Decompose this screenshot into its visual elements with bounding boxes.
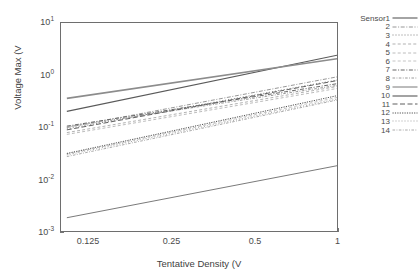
legend-line-swatch	[392, 109, 418, 117]
x-axis-label-text: Tentative Density (V	[157, 258, 241, 269]
series-line	[67, 100, 337, 157]
series-line	[67, 97, 337, 154]
legend-line-swatch	[392, 83, 418, 91]
series-lines	[61, 23, 337, 231]
legend-line-swatch	[392, 23, 418, 31]
legend-item-label: 14	[381, 126, 392, 135]
legend-line-swatch	[392, 57, 418, 65]
x-tick-label-1: 0.25	[163, 236, 181, 246]
series-line	[67, 99, 337, 155]
figure-canvas: Voltage Max (V 101 100 10-1 10-2 10-3 0.…	[0, 0, 418, 280]
y-tick-label-10e0: 100	[20, 70, 54, 80]
x-tick-label-0: 0.125	[77, 236, 100, 246]
series-line	[67, 89, 337, 135]
y-tick-label-10e-3: 10-3	[20, 227, 54, 237]
legend-item[interactable]: 5	[346, 48, 418, 57]
legend-line-swatch	[392, 66, 418, 74]
legend-line-swatch	[392, 100, 418, 108]
y-tick-label-10e-2: 10-2	[20, 175, 54, 185]
y-tick-label-10e1: 101	[20, 17, 54, 27]
legend-line-swatch	[392, 126, 418, 134]
series-line	[67, 81, 337, 130]
x-tick-label-3: 1	[335, 236, 340, 246]
legend-line-swatch	[392, 31, 418, 39]
legend-item[interactable]: 6	[346, 57, 418, 66]
legend-line-swatch	[392, 74, 418, 82]
series-line	[67, 87, 337, 133]
x-tick-label-2: 0.5	[249, 236, 262, 246]
legend-item[interactable]: 8	[346, 74, 418, 83]
legend-item[interactable]: 4	[346, 40, 418, 49]
legend-item[interactable]: 13	[346, 117, 418, 126]
legend-line-swatch	[392, 14, 418, 22]
legend-item[interactable]: Sensor1	[346, 14, 418, 23]
legend-item[interactable]: 14	[346, 126, 418, 135]
legend-line-swatch	[392, 92, 418, 100]
legend-line-swatch	[392, 117, 418, 125]
y-tick-label-10e-1: 10-1	[20, 122, 54, 132]
legend-item[interactable]: 7	[346, 66, 418, 75]
legend-item[interactable]: 9	[346, 83, 418, 92]
legend-item[interactable]: 10	[346, 91, 418, 100]
x-axis-label: Tentative Density (V	[60, 258, 338, 269]
series-line	[67, 59, 337, 99]
plot-area	[60, 22, 338, 232]
legend-line-swatch	[392, 49, 418, 57]
legend-item[interactable]: 11	[346, 100, 418, 109]
legend-item[interactable]: 12	[346, 109, 418, 118]
series-line	[67, 166, 337, 218]
legend-item[interactable]: 2	[346, 23, 418, 32]
legend: Sensor1234567891011121314	[346, 14, 418, 134]
legend-line-swatch	[392, 40, 418, 48]
legend-item[interactable]: 3	[346, 31, 418, 40]
series-line	[67, 55, 337, 111]
series-line	[67, 80, 337, 129]
